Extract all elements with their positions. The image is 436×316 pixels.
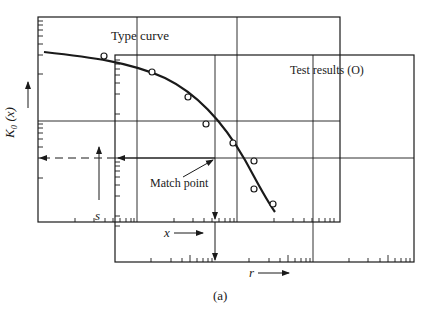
match-point-projection [40, 158, 215, 260]
type-curve-matching-diagram [0, 0, 436, 316]
type-curve-x-ticks [75, 218, 334, 222]
r-axis-label: r [249, 266, 254, 279]
type-curve-label: Type curve [111, 29, 169, 42]
s-axis-label: s [95, 209, 100, 222]
test-point [185, 94, 191, 100]
test-point [101, 53, 107, 59]
test-results-x-ticks [151, 255, 410, 262]
test-point [203, 121, 209, 127]
test-results-y-ticks [115, 60, 120, 226]
x-axis-label: x [164, 226, 170, 239]
test-results-label: Test results (O) [290, 64, 364, 76]
test-point [251, 158, 257, 164]
type-curve-sheet [38, 17, 340, 222]
match-point-label: Match point [150, 177, 208, 189]
k0-axis-label: K₀ (x) [3, 107, 16, 138]
test-point [251, 186, 257, 192]
test-point [149, 69, 155, 75]
test-point [270, 201, 276, 207]
type-curve-y-ticks [38, 21, 43, 178]
test-point [230, 140, 236, 146]
figure-caption: (a) [213, 289, 227, 302]
